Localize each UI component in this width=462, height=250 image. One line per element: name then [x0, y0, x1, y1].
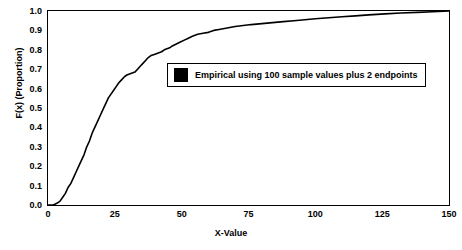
y-tick-label: 0.4: [6, 122, 42, 132]
x-tick-label: 50: [162, 209, 202, 219]
y-tick-label: 0.7: [6, 64, 42, 74]
y-tick-label: 0.5: [6, 103, 42, 113]
chart-container: 0.00.10.20.30.40.50.60.70.80.91.0 025507…: [0, 0, 462, 250]
x-tick-label: 0: [28, 209, 68, 219]
y-tick-label: 0.1: [6, 181, 42, 191]
x-tick-label: 125: [362, 209, 402, 219]
y-tick-label: 0.6: [6, 84, 42, 94]
series-curve: [48, 11, 449, 205]
x-axis-label: X-Value: [0, 228, 462, 238]
legend-label: Empirical using 100 sample values plus 2…: [195, 70, 418, 80]
y-tick-label: 0.2: [6, 161, 42, 171]
x-tick-label: 25: [95, 209, 135, 219]
y-axis-label: F(x) (Proportion): [14, 3, 24, 163]
legend: Empirical using 100 sample values plus 2…: [167, 63, 426, 87]
y-tick-label: 0.3: [6, 142, 42, 152]
y-tick-label: 1.0: [6, 6, 42, 16]
x-tick-label: 100: [295, 209, 335, 219]
y-tick-label: 0.9: [6, 25, 42, 35]
x-tick-label: 150: [429, 209, 462, 219]
x-tick-label: 75: [229, 209, 269, 219]
y-tick-label: 0.8: [6, 45, 42, 55]
legend-swatch-icon: [174, 68, 188, 82]
plot-area: [47, 10, 450, 206]
